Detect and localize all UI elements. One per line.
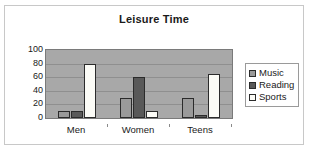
plot-area: [45, 49, 233, 119]
bar: [84, 64, 96, 118]
legend-swatch-icon: [249, 94, 256, 101]
bar: [71, 111, 83, 118]
legend-item[interactable]: Music: [249, 67, 294, 79]
legend-label: Reading: [259, 80, 294, 90]
bar-group: [170, 50, 232, 118]
y-tick-label: 60: [11, 72, 43, 81]
bar: [208, 74, 220, 118]
y-tick-label: 100: [11, 45, 43, 54]
x-axis: MenWomenTeens: [45, 124, 233, 138]
x-tick-label: Teens: [169, 124, 231, 135]
y-tick-label: 40: [11, 86, 43, 95]
bar: [133, 77, 145, 118]
legend-swatch-icon: [249, 70, 256, 77]
chart-legend: MusicReadingSports: [245, 63, 299, 107]
bar-group: [108, 50, 170, 118]
y-tick-label: 0: [11, 113, 43, 122]
legend-swatch-icon: [249, 82, 256, 89]
x-tick-mark: [231, 124, 232, 127]
legend-label: Sports: [259, 92, 286, 102]
y-tick-label: 80: [11, 59, 43, 68]
bar: [58, 111, 70, 118]
legend-item[interactable]: Reading: [249, 79, 294, 91]
bars-layer: [46, 50, 232, 118]
chart-title: Leisure Time: [5, 13, 303, 25]
y-tick-label: 20: [11, 99, 43, 108]
y-axis: 100806040200: [11, 44, 43, 124]
bar: [120, 98, 132, 118]
legend-label: Music: [259, 68, 284, 78]
bar: [182, 98, 194, 118]
x-tick-label: Men: [45, 124, 107, 135]
bar: [146, 111, 158, 118]
bar: [195, 115, 207, 118]
x-tick-label: Women: [107, 124, 169, 135]
bar-group: [46, 50, 108, 118]
legend-item[interactable]: Sports: [249, 91, 294, 103]
chart-frame: Leisure Time 100806040200 MenWomenTeens …: [4, 5, 304, 145]
